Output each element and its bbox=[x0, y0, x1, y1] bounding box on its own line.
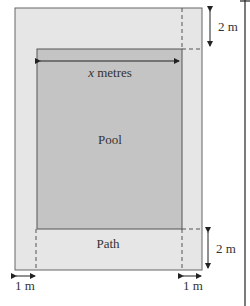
top-dim-label: 2 m bbox=[218, 19, 238, 34]
pool-label: Pool bbox=[98, 132, 122, 147]
bottom-dim-label: 2 m bbox=[216, 241, 236, 256]
left-dim-label: 1 m bbox=[15, 278, 35, 293]
right-dim-label: 1 m bbox=[183, 278, 203, 293]
width-label: x metres bbox=[87, 65, 132, 80]
pool-path-diagram: x metres Pool Path 2 m 2 m 1 m 1 m bbox=[0, 0, 250, 306]
path-label: Path bbox=[96, 236, 120, 251]
